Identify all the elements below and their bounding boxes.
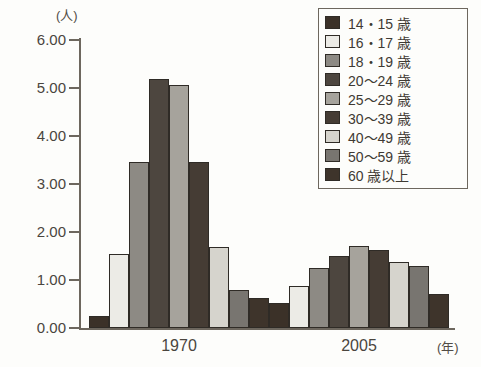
y-axis-tick-label: 6.00: [0, 31, 66, 48]
legend-item[interactable]: 25〜29 歳: [325, 89, 462, 108]
bar: [109, 254, 129, 328]
chart-legend: 14・15 歳16・17 歳18・19 歳20〜24 歳25〜29 歳30〜39…: [318, 8, 468, 189]
bar: [89, 316, 109, 328]
legend-item[interactable]: 14・15 歳: [325, 13, 462, 32]
chart-container: (人) (年) 6.005.004.003.002.001.000.00 197…: [0, 0, 481, 367]
legend-item[interactable]: 40〜49 歳: [325, 127, 462, 146]
bar: [309, 268, 329, 328]
bar: [129, 162, 149, 328]
y-axis-tick-label: 3.00: [0, 175, 66, 192]
bar: [229, 290, 249, 328]
legend-item[interactable]: 50〜59 歳: [325, 146, 462, 165]
bar: [329, 256, 349, 328]
bar: [369, 250, 389, 328]
legend-swatch-icon: [325, 168, 340, 181]
bar: [409, 266, 429, 328]
legend-item[interactable]: 30〜39 歳: [325, 108, 462, 127]
bar: [349, 246, 369, 328]
x-axis-unit-label: (年): [437, 337, 459, 356]
bar: [289, 286, 309, 328]
x-axis-group-label: 2005: [319, 337, 399, 355]
bar: [429, 294, 449, 328]
legend-swatch-icon: [325, 54, 340, 67]
legend-swatch-icon: [325, 16, 340, 29]
legend-swatch-icon: [325, 111, 340, 124]
y-axis-tick-label: 2.00: [0, 223, 66, 240]
legend-swatch-icon: [325, 73, 340, 86]
y-axis-tick-label: 0.00: [0, 319, 66, 336]
legend-item[interactable]: 16・17 歳: [325, 32, 462, 51]
legend-item[interactable]: 18・19 歳: [325, 51, 462, 70]
legend-item[interactable]: 20〜24 歳: [325, 70, 462, 89]
legend-swatch-icon: [325, 92, 340, 105]
y-axis-unit-label: (人): [56, 5, 78, 24]
legend-swatch-icon: [325, 35, 340, 48]
legend-item[interactable]: 60 歳以上: [325, 165, 462, 184]
legend-item-label: 14・15 歳: [348, 13, 411, 33]
y-axis-tick-label: 4.00: [0, 127, 66, 144]
legend-item-label: 25〜29 歳: [348, 89, 411, 109]
bar: [389, 262, 409, 328]
bar: [189, 162, 209, 328]
legend-item-label: 18・19 歳: [348, 51, 411, 71]
y-axis-tick-label: 1.00: [0, 271, 66, 288]
legend-item-label: 30〜39 歳: [348, 108, 411, 128]
legend-swatch-icon: [325, 130, 340, 143]
y-axis-tick-label: 5.00: [0, 79, 66, 96]
legend-item-label: 50〜59 歳: [348, 146, 411, 166]
legend-item-label: 40〜49 歳: [348, 127, 411, 147]
chart-title: [0, 0, 481, 3]
legend-item-label: 16・17 歳: [348, 32, 411, 52]
bar: [169, 85, 189, 328]
bar: [209, 247, 229, 328]
bar: [149, 79, 169, 328]
bar: [269, 303, 289, 328]
legend-item-label: 60 歳以上: [348, 165, 409, 185]
legend-item-label: 20〜24 歳: [348, 70, 411, 90]
legend-swatch-icon: [325, 149, 340, 162]
bar: [249, 298, 269, 328]
x-axis-line: [79, 328, 455, 330]
x-axis-group-label: 1970: [139, 337, 219, 355]
